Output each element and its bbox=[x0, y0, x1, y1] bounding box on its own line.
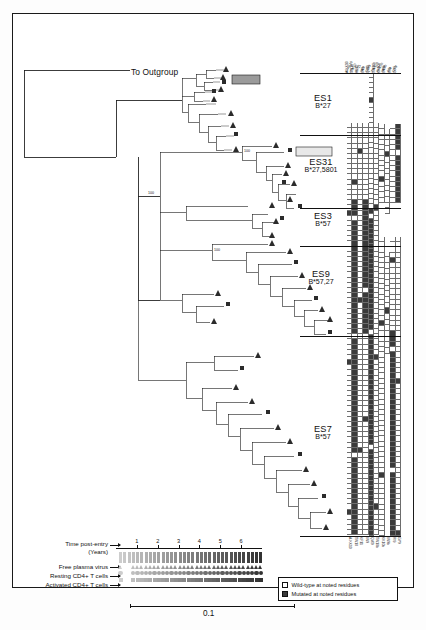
group-label-es1: ES1 B*27 bbox=[296, 93, 350, 111]
legend-label-resting-cd4: Resting CD4+ T cells bbox=[20, 572, 108, 579]
legend-row-wildtype: Wild-type at noted residues bbox=[282, 581, 394, 590]
timeline-tick bbox=[137, 545, 138, 549]
matrix-vheader-7: IW9b bbox=[382, 65, 386, 73]
timeline-tick-label: 1 bbox=[135, 538, 138, 544]
timeline-tick-label: 6 bbox=[240, 538, 243, 544]
legend-arrowhead-activated bbox=[118, 583, 121, 587]
scale-bar bbox=[130, 606, 294, 607]
timeline-tick-label: 3 bbox=[177, 538, 180, 544]
timeline-tick bbox=[220, 545, 221, 549]
matrix-vheader-2: KF11 bbox=[355, 65, 359, 73]
timeline-virus-bar bbox=[208, 552, 211, 563]
timeline-virus-bar bbox=[200, 552, 203, 563]
group-separator-es3-es9 bbox=[300, 246, 401, 247]
timeline-tick-label: 2 bbox=[156, 538, 159, 544]
matrix-vheader-0: A-KK10 bbox=[345, 61, 349, 73]
timeline-virus-bar bbox=[259, 552, 262, 563]
timeline-virus-bar bbox=[196, 552, 199, 563]
timeline-virus-bar bbox=[213, 552, 216, 563]
timeline-virus-bar bbox=[251, 552, 254, 563]
group-label-es9: ES9 B*57,27 bbox=[292, 269, 350, 287]
group-separator-es1-es31 bbox=[300, 135, 401, 136]
matrix-footer-7: IW9b bbox=[386, 537, 390, 545]
timeline-virus-bar bbox=[123, 552, 126, 563]
group-label-es31: ES31 B*27,5801 bbox=[290, 157, 352, 175]
group-hla-es1: B*27 bbox=[296, 103, 350, 111]
matrix-footer-labels: A-KK10 TW10 KF11 IW9 QW9 TW10b KK10b IW9… bbox=[347, 537, 403, 563]
timeline-virus-bar bbox=[153, 552, 156, 563]
timeline-virus-bar bbox=[204, 552, 207, 563]
matrix-footer-5: TW10b bbox=[375, 537, 379, 548]
timeline-virus-bar bbox=[221, 552, 224, 563]
legend-glyph-square bbox=[259, 578, 263, 582]
timeline-tick bbox=[179, 545, 180, 549]
group-hla-es31: B*27,5801 bbox=[290, 167, 352, 175]
timeline-virus-bar bbox=[183, 552, 186, 563]
legend-glyph-circle bbox=[118, 571, 122, 575]
bootstrap-value-2: 100 bbox=[244, 149, 250, 153]
timeline-virus-bar bbox=[242, 552, 245, 563]
legend-label-activated-cd4: Activated CD4+ T cells bbox=[14, 581, 108, 588]
matrix-vheader-9: GY9 bbox=[393, 66, 397, 73]
timeline-virus-bar bbox=[225, 552, 228, 563]
timeline-virus-bar bbox=[174, 552, 177, 563]
timeline-title-line1: Time post-entry bbox=[24, 540, 108, 547]
timeline-virus-bar bbox=[157, 552, 160, 563]
group-separator-es9-es7 bbox=[300, 336, 401, 337]
bootstrap-value-1: 100 bbox=[148, 191, 154, 195]
group-separator-es31-es3 bbox=[300, 208, 401, 209]
timeline-virus-bar bbox=[166, 552, 169, 563]
matrix-footer-3: IW9 bbox=[365, 537, 369, 543]
timeline-tick bbox=[158, 545, 159, 549]
group-hla-es7: B*57 bbox=[296, 434, 350, 442]
mutated-label: Mutated at noted residues bbox=[292, 591, 357, 597]
timeline-virus-bar bbox=[247, 552, 250, 563]
timeline-virus-bar bbox=[140, 552, 143, 563]
matrix-vheader-4: QW9 bbox=[366, 65, 370, 73]
scale-bar-tick-left bbox=[130, 604, 131, 608]
timeline-virus-bar bbox=[162, 552, 165, 563]
timeline-virus-bar bbox=[136, 552, 139, 563]
scale-bar-tick-right bbox=[294, 604, 295, 608]
legend-glyph-triangle bbox=[258, 565, 262, 569]
matrix-footer-8: RI9 bbox=[392, 537, 396, 542]
wildtype-swatch bbox=[282, 582, 288, 588]
group-separator-top bbox=[300, 73, 401, 74]
matrix-footer-2: KF11 bbox=[359, 537, 363, 545]
matrix-column-headers-vertical: A-KK10 TW10 KF11 IW9 QW9 TW10b KK10b IW9… bbox=[347, 48, 403, 73]
timeline-virus-bar bbox=[238, 552, 241, 563]
timeline-tick bbox=[241, 545, 242, 549]
outgroup-label: To Outgroup bbox=[131, 67, 178, 77]
timeline-virus-bar bbox=[230, 552, 233, 563]
timeline-virus-bar bbox=[128, 552, 131, 563]
timeline-title-arrowhead bbox=[118, 543, 121, 547]
timeline-virus-bar bbox=[132, 552, 135, 563]
group-hla-es3: B*57 bbox=[296, 221, 350, 229]
matrix-footer-9: GY9 bbox=[397, 537, 401, 544]
matrix-footer-6: KK10b bbox=[381, 537, 385, 547]
matrix-column-9 bbox=[396, 73, 401, 536]
wildtype-label: Wild-type at noted residues bbox=[292, 582, 360, 588]
timeline-virus-bar bbox=[187, 552, 190, 563]
group-label-es7: ES7 B*57 bbox=[296, 424, 350, 442]
timeline-virus-bar bbox=[145, 552, 148, 563]
matrix-footer-1: TW10 bbox=[354, 537, 358, 546]
timeline-title-line2: (Years) bbox=[24, 548, 108, 555]
timeline-virus-bar bbox=[255, 552, 258, 563]
matrix-vheader-6: KK10b bbox=[377, 63, 381, 73]
scale-bar-label: 0.1 bbox=[203, 609, 214, 618]
mutated-swatch bbox=[282, 591, 288, 597]
timeline-virus-bar bbox=[234, 552, 237, 563]
group-label-es3: ES3 B*57 bbox=[296, 211, 350, 229]
matrix-footer-4: QW9 bbox=[370, 537, 374, 545]
legend-glyph-square bbox=[119, 578, 123, 582]
figure-root: To Outgroup 100 100 100 A-KK10 TW10 KF11… bbox=[0, 0, 426, 630]
legend-label-free-plasma-virus: Free plasma virus bbox=[20, 563, 108, 570]
bootstrap-value-3: 100 bbox=[214, 248, 220, 252]
matrix-legend-box: Wild-type at noted residues Mutated at n… bbox=[278, 577, 398, 601]
timeline-virus-bar bbox=[170, 552, 173, 563]
mutation-matrix bbox=[347, 73, 401, 536]
matrix-vheader-1: TW10 bbox=[350, 64, 354, 73]
timeline-tick-label: 4 bbox=[198, 538, 201, 544]
matrix-footer-0: A-KK10 bbox=[348, 537, 352, 549]
